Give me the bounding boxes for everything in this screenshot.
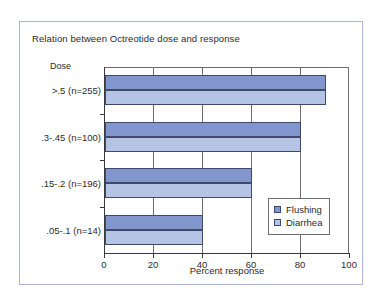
bar-diarrhea bbox=[105, 183, 252, 198]
x-axis-tick bbox=[202, 254, 203, 258]
legend-swatch-flushing-icon bbox=[274, 206, 281, 213]
y-axis-title: Dose bbox=[50, 61, 71, 71]
plot-border-top bbox=[104, 67, 349, 68]
bar-flushing bbox=[105, 122, 301, 137]
plot-border-right bbox=[348, 67, 349, 253]
y-axis-tick bbox=[100, 114, 104, 115]
plot-area: 020406080100 >.5 (n=255).3-.45 (n=100).1… bbox=[104, 67, 349, 253]
x-axis-line bbox=[104, 253, 350, 254]
legend-swatch-diarrhea-icon bbox=[274, 219, 281, 226]
bar-diarrhea bbox=[105, 137, 301, 152]
x-axis-tick bbox=[300, 254, 301, 258]
y-axis-tick bbox=[100, 160, 104, 161]
bar-flushing bbox=[105, 75, 326, 90]
x-axis-tick bbox=[153, 254, 154, 258]
chart-frame: Relation between Octreotide dose and res… bbox=[19, 21, 363, 285]
y-axis-category-label: .3-.45 (n=100) bbox=[41, 131, 101, 142]
bar-flushing bbox=[105, 215, 203, 230]
bar-flushing bbox=[105, 168, 252, 183]
bar-diarrhea bbox=[105, 90, 326, 105]
x-axis-tick bbox=[349, 254, 350, 258]
x-axis-title: Percent response bbox=[104, 265, 350, 276]
y-axis-category-label: .15-.2 (n=196) bbox=[41, 178, 101, 189]
chart-title: Relation between Octreotide dose and res… bbox=[32, 33, 240, 44]
legend-item-diarrhea: Diarrhea bbox=[274, 216, 322, 229]
y-axis-tick bbox=[100, 207, 104, 208]
legend-label-flushing: Flushing bbox=[286, 204, 322, 215]
y-axis-category-label: >.5 (n=255) bbox=[52, 85, 101, 96]
bar-diarrhea bbox=[105, 230, 203, 245]
y-axis-category-label: .05-.1 (n=14) bbox=[46, 224, 101, 235]
x-axis-tick bbox=[251, 254, 252, 258]
chart-legend: Flushing Diarrhea bbox=[268, 198, 330, 235]
legend-item-flushing: Flushing bbox=[274, 203, 322, 216]
legend-label-diarrhea: Diarrhea bbox=[286, 217, 322, 228]
x-axis-tick bbox=[104, 254, 105, 258]
